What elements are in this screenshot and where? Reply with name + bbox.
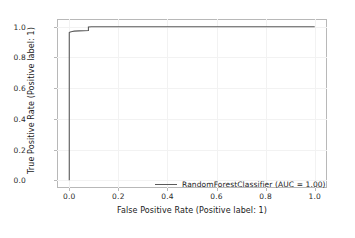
y-tick-label: 0.4 bbox=[13, 114, 26, 123]
legend-line-swatch bbox=[155, 184, 177, 185]
roc-curve-line bbox=[57, 19, 327, 188]
x-tick-label: 0.8 bbox=[259, 192, 272, 201]
tick-mark-x bbox=[69, 188, 70, 191]
y-axis-label: True Positive Rate (Positive label: 1) bbox=[27, 16, 36, 186]
y-tick-label: 0.0 bbox=[13, 176, 26, 185]
y-tick-label: 0.8 bbox=[13, 53, 26, 62]
x-tick-label: 0.4 bbox=[161, 192, 174, 201]
y-tick-label: 0.6 bbox=[13, 84, 26, 93]
x-tick-label: 0.6 bbox=[210, 192, 223, 201]
x-tick-label: 0.2 bbox=[112, 192, 125, 201]
x-axis-label: False Positive Rate (Positive label: 1) bbox=[57, 206, 327, 215]
roc-curve-figure: 0.00.20.40.60.81.0 0.00.20.40.60.81.0 Fa… bbox=[0, 0, 355, 238]
y-tick-label: 1.0 bbox=[13, 22, 26, 31]
x-tick-label: 0.0 bbox=[63, 192, 76, 201]
chart-legend: RandomForestClassifier (AUC = 1.00) bbox=[155, 180, 326, 189]
y-tick-label: 0.2 bbox=[13, 145, 26, 154]
tick-mark-x bbox=[118, 188, 119, 191]
x-tick-label: 1.0 bbox=[308, 192, 321, 201]
legend-entry-label: RandomForestClassifier (AUC = 1.00) bbox=[182, 180, 326, 189]
plot-area bbox=[57, 19, 327, 188]
